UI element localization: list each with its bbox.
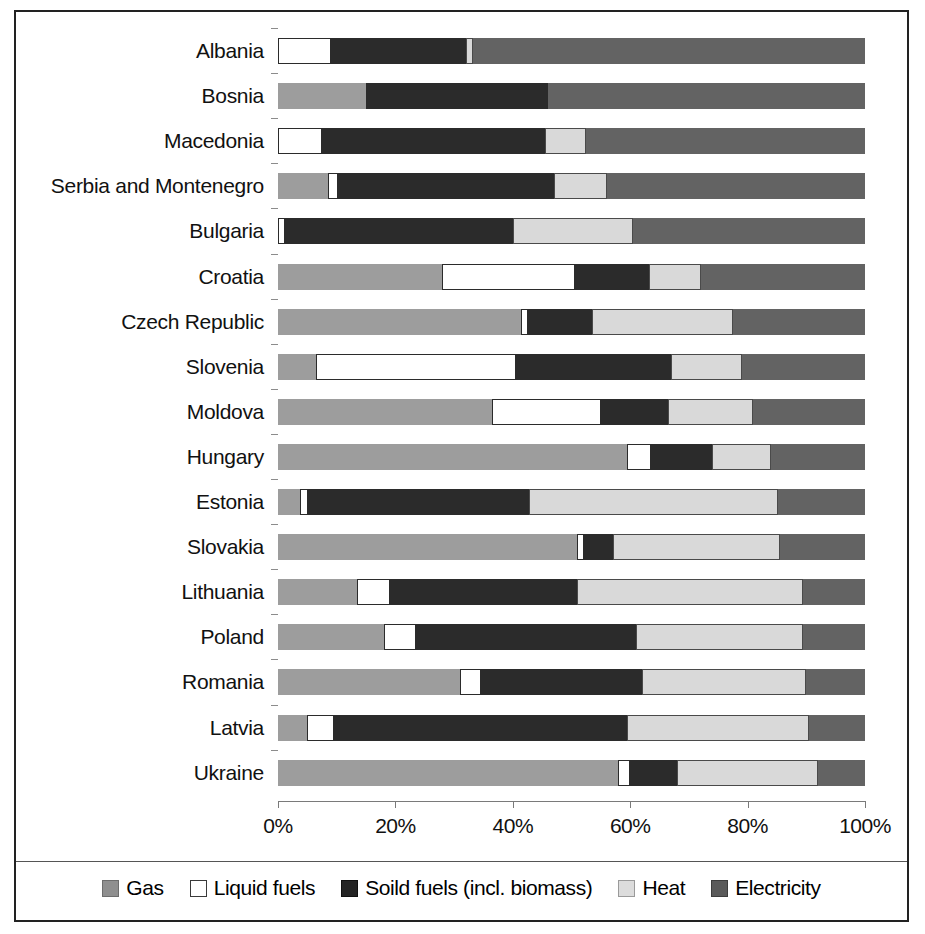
stacked-bar (278, 534, 865, 560)
x-tick (748, 801, 749, 808)
bar-row: Hungary (278, 444, 865, 470)
bar-segment-solid-fuels (334, 715, 628, 741)
stacked-bar (278, 309, 865, 335)
category-tick (271, 659, 278, 660)
category-label-poland: Poland (200, 625, 264, 649)
heat-swatch-icon (618, 880, 635, 897)
bar-segment-liquid-fuels (618, 760, 630, 786)
bar-segment-electricity (753, 399, 865, 425)
category-label-slovenia: Slovenia (186, 355, 264, 379)
bar-segment-electricity (818, 760, 865, 786)
bar-segment-electricity (771, 444, 865, 470)
bar-segment-solid-fuels (338, 173, 553, 199)
bar-row: Slovakia (278, 534, 865, 560)
x-tick (865, 801, 866, 808)
category-label-ukraine: Ukraine (194, 761, 264, 785)
bar-segment-gas (278, 489, 300, 515)
bar-segment-heat (668, 399, 753, 425)
bar-segment-solid-fuels (322, 128, 545, 154)
bar-segment-heat (649, 264, 701, 290)
bar-segment-electricity (742, 354, 865, 380)
electricity-swatch-icon (711, 880, 728, 897)
stacked-bar (278, 83, 865, 109)
bar-row: Albania (278, 38, 865, 64)
stacked-bar (278, 444, 865, 470)
bar-segment-electricity (806, 669, 865, 695)
x-tick-label: 100% (839, 814, 891, 838)
liquid-fuels-swatch-icon (190, 880, 207, 897)
stacked-bar (278, 760, 865, 786)
bar-segment-solid-fuels (601, 399, 669, 425)
x-tick (630, 801, 631, 808)
bar-row: Estonia (278, 489, 865, 515)
bar-row: Moldova (278, 399, 865, 425)
bar-segment-heat (627, 715, 809, 741)
category-tick (271, 750, 278, 751)
bar-segment-gas (278, 83, 366, 109)
bar-row: Macedonia (278, 128, 865, 154)
bar-segment-solid-fuels (651, 444, 713, 470)
category-tick (271, 479, 278, 480)
x-tick-label: 80% (727, 814, 768, 838)
x-tick (278, 801, 279, 808)
bar-segment-gas (278, 173, 328, 199)
bar-row: Latvia (278, 715, 865, 741)
bar-segment-solid-fuels (630, 760, 677, 786)
gas-swatch-icon (102, 880, 119, 897)
bar-segment-gas (278, 534, 577, 560)
legend-item-heat: Heat (618, 876, 685, 900)
bar-segment-heat (545, 128, 586, 154)
category-label-macedonia: Macedonia (164, 129, 264, 153)
category-label-bosnia: Bosnia (202, 84, 264, 108)
category-tick (271, 73, 278, 74)
legend-item-soild-fuels-incl-biomass-: Soild fuels (incl. biomass) (341, 876, 592, 900)
bar-segment-electricity (607, 173, 865, 199)
bar-segment-heat (513, 218, 633, 244)
bar-segment-solid-fuels (528, 309, 592, 335)
bar-segment-liquid-fuels (577, 534, 584, 560)
x-tick-label: 20% (375, 814, 416, 838)
bar-segment-gas (278, 760, 618, 786)
bar-segment-gas (278, 579, 357, 605)
bar-segment-electricity (548, 83, 865, 109)
bar-segment-electricity (809, 715, 865, 741)
bar-segment-electricity (803, 624, 865, 650)
bar-row: Slovenia (278, 354, 865, 380)
bar-row: Bosnia (278, 83, 865, 109)
bar-segment-heat (466, 38, 474, 64)
stacked-bar (278, 264, 865, 290)
stacked-bar (278, 715, 865, 741)
bar-segment-liquid-fuels (442, 264, 575, 290)
category-tick (271, 28, 278, 29)
bar-segment-liquid-fuels (460, 669, 481, 695)
category-label-hungary: Hungary (187, 445, 264, 469)
bar-segment-gas (278, 399, 492, 425)
bar-segment-electricity (733, 309, 865, 335)
category-tick (271, 389, 278, 390)
bar-segment-gas (278, 715, 307, 741)
legend-item-liquid-fuels: Liquid fuels (190, 876, 315, 900)
stacked-bar (278, 624, 865, 650)
chart-figure: AlbaniaBosniaMacedoniaSerbia and Montene… (14, 10, 909, 922)
bar-segment-solid-fuels (331, 38, 466, 64)
bar-row: Lithuania (278, 579, 865, 605)
bar-segment-liquid-fuels (357, 579, 389, 605)
bar-segment-solid-fuels (416, 624, 636, 650)
category-label-czech-republic: Czech Republic (121, 310, 264, 334)
category-label-croatia: Croatia (198, 265, 264, 289)
bar-segment-liquid-fuels (328, 173, 339, 199)
bar-segment-electricity (633, 218, 865, 244)
category-tick (271, 118, 278, 119)
category-tick (271, 569, 278, 570)
category-label-albania: Albania (196, 39, 264, 63)
bar-segment-heat (642, 669, 806, 695)
x-tick (513, 801, 514, 808)
category-tick (271, 524, 278, 525)
stacked-bar (278, 354, 865, 380)
stacked-bar (278, 218, 865, 244)
bar-row: Croatia (278, 264, 865, 290)
bar-segment-solid-fuels (366, 83, 548, 109)
plot-area: AlbaniaBosniaMacedoniaSerbia and Montene… (278, 20, 865, 802)
bar-row: Bulgaria (278, 218, 865, 244)
bar-segment-gas (278, 444, 627, 470)
